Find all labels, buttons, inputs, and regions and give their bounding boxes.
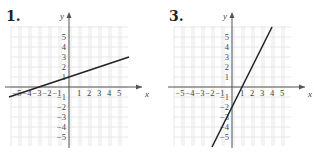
svg-text:−2: −2 <box>220 102 229 112</box>
svg-text:1: 1 <box>77 88 81 98</box>
svg-text:y: y <box>222 11 227 21</box>
svg-text:1: 1 <box>62 72 66 82</box>
svg-text:1: 1 <box>225 72 229 82</box>
svg-text:x: x <box>144 89 149 99</box>
graph-3-plot: xy−5−4−3−2−112345−5−4−3−2−112345 <box>163 0 317 158</box>
svg-text:−2: −2 <box>42 88 51 98</box>
graph-1-plot: xy−5−4−3−2−112345−5−4−3−2−112345 <box>0 0 158 158</box>
svg-text:3: 3 <box>97 88 101 98</box>
svg-text:−2: −2 <box>57 102 66 112</box>
svg-text:−4: −4 <box>57 122 67 132</box>
axes <box>5 14 142 148</box>
svg-text:−1: −1 <box>220 92 229 102</box>
svg-text:x: x <box>307 89 312 99</box>
svg-text:2: 2 <box>87 88 91 98</box>
svg-text:−2: −2 <box>205 88 214 98</box>
svg-text:2: 2 <box>250 88 254 98</box>
svg-text:3: 3 <box>225 52 229 62</box>
svg-text:3: 3 <box>62 52 66 62</box>
svg-text:5: 5 <box>280 88 284 98</box>
svg-text:5: 5 <box>225 32 229 42</box>
svg-text:−5: −5 <box>220 132 229 142</box>
axes <box>168 14 305 148</box>
graph-1: 1. xy−5−4−3−2−112345−5−4−3−2−112345 <box>0 0 158 158</box>
svg-text:−3: −3 <box>195 88 204 98</box>
svg-text:2: 2 <box>225 62 229 72</box>
svg-text:5: 5 <box>62 32 66 42</box>
svg-text:−4: −4 <box>185 88 195 98</box>
svg-text:3: 3 <box>260 88 264 98</box>
svg-text:−5: −5 <box>175 88 184 98</box>
svg-text:−3: −3 <box>57 112 66 122</box>
svg-text:y: y <box>59 11 64 21</box>
graph-3: 3. xy−5−4−3−2−112345−5−4−3−2−112345 <box>163 0 317 158</box>
svg-text:−5: −5 <box>57 132 66 142</box>
svg-text:−1: −1 <box>57 92 66 102</box>
svg-text:5: 5 <box>117 88 121 98</box>
svg-text:2: 2 <box>62 62 66 72</box>
